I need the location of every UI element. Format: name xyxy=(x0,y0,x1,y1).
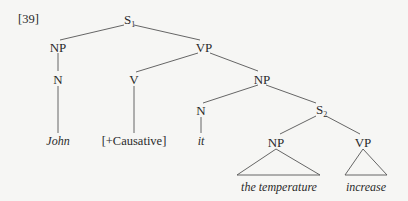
node-s1: S1 xyxy=(124,12,135,29)
node-n-subject: N xyxy=(53,72,63,87)
node-s2: S2 xyxy=(316,102,327,119)
edge-s2-vp xyxy=(326,116,360,134)
edge-s1-np xyxy=(60,25,124,40)
tree-edges xyxy=(58,25,387,175)
edge-vp-v xyxy=(136,53,198,72)
syntax-tree-diagram: [39] S1 NP VP N V NP N S2 NP VP John [+C… xyxy=(0,0,408,201)
edge-s2-np xyxy=(280,116,316,134)
leaf-it: it xyxy=(198,134,205,148)
node-n-object: N xyxy=(196,103,206,118)
leaf-increase: increase xyxy=(346,180,387,194)
edge-s1-vp xyxy=(134,25,200,40)
node-v-main: V xyxy=(129,72,139,87)
node-np-subject: NP xyxy=(50,40,67,55)
edge-vp-np xyxy=(210,53,258,71)
node-vp-embedded: VP xyxy=(355,135,372,150)
node-np-embedded: NP xyxy=(268,135,285,150)
triangle-vp-embedded xyxy=(345,149,387,175)
node-vp-main: VP xyxy=(196,40,213,55)
leaf-causative: [+Causative] xyxy=(102,134,167,148)
triangle-np-embedded xyxy=(237,149,320,175)
edge-np-s2 xyxy=(266,85,316,103)
leaf-john: John xyxy=(46,134,69,148)
example-number: [39] xyxy=(18,12,39,26)
node-np-object: NP xyxy=(254,72,271,87)
edge-np-n-object xyxy=(203,85,258,103)
leaf-the-temperature: the temperature xyxy=(241,180,318,194)
